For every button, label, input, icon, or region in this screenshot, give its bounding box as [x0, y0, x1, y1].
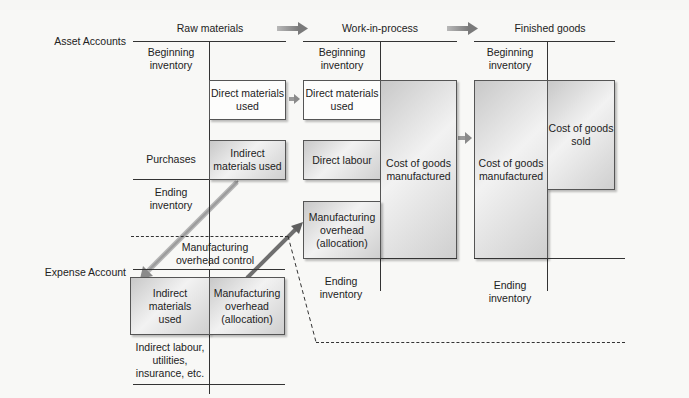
diagram-canvas: Asset Accounts Expense Account Raw mater…	[0, 10, 689, 398]
arrow-dmu-transfer-icon	[289, 94, 300, 104]
moh-indirect-materials-used-box: Indirectmaterialsused	[130, 277, 210, 335]
fg-ending-line	[474, 258, 625, 259]
dashed-boundary-top	[131, 236, 288, 237]
fg-ending-inventory: Endinginventory	[478, 279, 542, 305]
wip-ending-line	[380, 258, 457, 259]
expense-account-label: Expense Account	[20, 266, 126, 279]
fg-top-line	[474, 41, 615, 42]
arrow-cogm-transfer-icon	[458, 132, 472, 144]
moh-control-title: Manufacturingoverhead control	[170, 241, 260, 267]
moh-allocation-box: Manufacturingoverhead(allocation)	[209, 277, 285, 335]
fg-beginning-inventory: Beginninginventory	[478, 46, 542, 72]
wip-ending-inventory: Endinginventory	[308, 275, 374, 301]
rm-indirect-materials-used-box: Indirectmaterials used	[209, 140, 286, 180]
wip-direct-materials-used-box: Direct materialsused	[303, 80, 381, 120]
wip-cost-of-goods-manufactured-box: Cost of goodsmanufactured	[380, 80, 457, 259]
arrow-wip-to-fg-icon	[447, 22, 478, 35]
wip-manufacturing-overhead-allocation-box: Manufacturingoverhead(allocation)	[303, 201, 381, 259]
wip-direct-labour-box: Direct labour	[303, 140, 381, 180]
fg-cost-of-goods-sold-box: Cost of goodssold	[547, 80, 615, 190]
fg-title: Finished goods	[495, 22, 605, 35]
rm-direct-materials-used-box: Direct materialsused	[209, 80, 286, 120]
asset-accounts-label: Asset Accounts	[20, 35, 126, 48]
rm-ending-inventory: Endinginventory	[140, 186, 202, 212]
moh-bottom-line	[133, 384, 285, 385]
dashed-boundary-bottom	[316, 342, 625, 343]
arrow-rm-to-wip-icon	[277, 22, 308, 35]
moh-other-costs: Indirect labour,utilities,insurance, etc…	[133, 341, 207, 380]
wip-beginning-inventory: Beginninginventory	[310, 46, 374, 72]
fg-cost-of-goods-manufactured-box: Cost of goodsmanufactured	[474, 80, 548, 259]
wip-title: Work-in-process	[325, 22, 435, 35]
raw-materials-title: Raw materials	[160, 22, 260, 35]
rm-beginning-inventory: Beginninginventory	[140, 46, 202, 72]
rm-ending-line	[133, 179, 209, 180]
rm-purchases: Purchases	[140, 153, 202, 166]
